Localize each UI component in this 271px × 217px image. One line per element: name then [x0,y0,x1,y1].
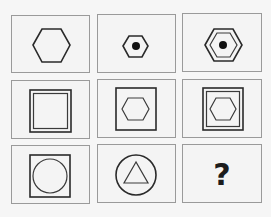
double-hexagon-with-dot-icon [183,14,263,73]
square-with-hexagon-icon [98,80,177,139]
cell-r2c2 [97,79,176,138]
cell-r3c1 [11,145,90,204]
question-mark: ? [183,157,261,192]
cell-r3c2 [97,144,176,203]
double-square-icon [12,81,91,140]
cell-r2c1 [11,80,90,139]
circle-with-triangle-icon [98,145,177,204]
cell-r1c2 [97,14,176,73]
cell-r2c3 [182,79,262,138]
hexagon-icon [12,16,91,74]
cell-r1c1 [11,15,90,73]
cell-r3c3-answer: ? [182,144,262,203]
square-with-circle-icon [12,146,91,205]
cell-r1c3 [182,13,262,72]
hexagon-with-dot-icon [98,15,177,74]
double-square-with-hexagon-icon [183,80,263,139]
